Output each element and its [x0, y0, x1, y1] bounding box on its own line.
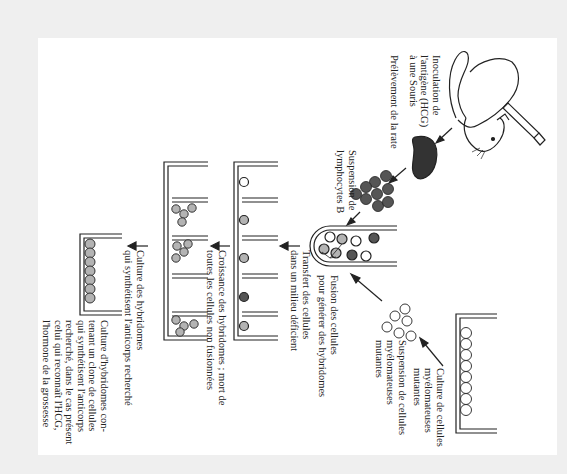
- label-spleen: Prélèvement de la rate: [389, 55, 401, 149]
- label-inoculation: Inoculation de l'antigène (HCG) à une So…: [408, 55, 443, 127]
- clone-culture-dish: [80, 234, 122, 315]
- label-fusion: Fusion des cellules pour générer des hyb…: [317, 275, 340, 397]
- label-growth: Croissance des hybridomes ; mort de tout…: [205, 250, 228, 405]
- plate-growth: [164, 162, 208, 340]
- label-lymphocytes: Suspension de lymphocytes B: [335, 150, 358, 213]
- label-antibody-culture: Culture des hybridomes qui synthétisent …: [123, 250, 146, 406]
- label-clone-culture: Culture d'hybridomes con- tenant un clon…: [41, 320, 110, 444]
- label-transfer: Transfert des cellules dans un milieu dé…: [289, 250, 312, 351]
- label-myeloma-culture: Culture de cellules myélomateuses mutant…: [412, 368, 447, 447]
- mouse-illustration: [449, 52, 545, 159]
- fusion-tube: [310, 226, 397, 266]
- myeloma-suspension: [382, 304, 416, 341]
- myeloma-culture-dish: [456, 314, 497, 433]
- plate-transfer: [234, 162, 278, 340]
- label-myeloma-suspension: Suspension de cellules myélomateuses mut…: [374, 340, 409, 435]
